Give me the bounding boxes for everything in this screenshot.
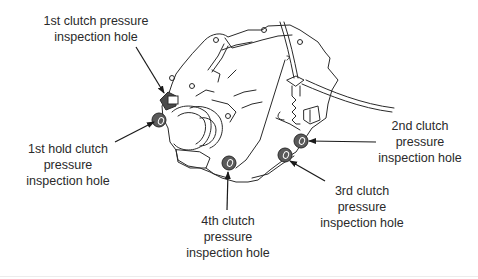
hole-1st-hold-clutch — [152, 113, 166, 127]
label-1st-clutch-line-1: 1st clutch pressure — [36, 13, 156, 29]
label-2nd-clutch-line-3: inspection hole — [370, 150, 470, 166]
label-1st-hold-clutch: 1st hold clutch pressure inspection hole — [18, 141, 118, 189]
hole-2nd-clutch — [294, 134, 308, 148]
inspection-holes — [152, 92, 308, 170]
label-1st-hold-clutch-line-1: 1st hold clutch — [18, 141, 118, 157]
bottom-divider — [0, 276, 478, 277]
arrow-3rd-clutch — [290, 161, 325, 181]
hole-1st-clutch — [160, 92, 178, 110]
label-3rd-clutch-line-1: 3rd clutch — [314, 183, 410, 199]
label-2nd-clutch-line-1: 2nd clutch — [370, 118, 470, 134]
arrow-1st-hold-clutch — [115, 122, 154, 142]
label-4th-clutch-line-1: 4th clutch — [180, 213, 276, 229]
label-3rd-clutch-line-2: pressure — [314, 199, 410, 215]
label-2nd-clutch: 2nd clutch pressure inspection hole — [370, 118, 470, 166]
transmission-outline — [162, 22, 394, 182]
label-4th-clutch: 4th clutch pressure inspection hole — [180, 213, 276, 261]
label-2nd-clutch-line-2: pressure — [370, 134, 470, 150]
label-1st-hold-clutch-line-3: inspection hole — [18, 173, 118, 189]
label-3rd-clutch: 3rd clutch pressure inspection hole — [314, 183, 410, 231]
arrow-2nd-clutch — [309, 141, 376, 142]
arrow-1st-clutch — [136, 47, 164, 93]
label-1st-clutch-line-2: inspection hole — [36, 29, 156, 45]
label-1st-clutch: 1st clutch pressure inspection hole — [36, 13, 156, 45]
label-4th-clutch-line-3: inspection hole — [180, 245, 276, 261]
label-1st-hold-clutch-line-2: pressure — [18, 157, 118, 173]
label-3rd-clutch-line-3: inspection hole — [314, 215, 410, 231]
hole-4th-clutch — [222, 156, 236, 170]
label-4th-clutch-line-2: pressure — [180, 229, 276, 245]
hole-3rd-clutch — [278, 148, 292, 162]
